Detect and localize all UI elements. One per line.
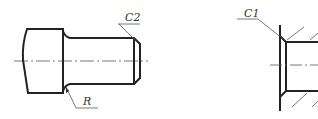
c1-label: C1: [244, 7, 259, 20]
drawing-canvas: C2 R: [0, 0, 318, 119]
hatch-line: [287, 27, 304, 40]
hole-view: C1: [237, 7, 318, 111]
c2-label: C2: [125, 11, 140, 24]
shaft-view: C2 R: [14, 11, 148, 108]
r-label: R: [82, 95, 91, 108]
hatch-line: [292, 93, 307, 107]
hatch-line: [310, 33, 318, 40]
hatch-line: [312, 101, 318, 107]
